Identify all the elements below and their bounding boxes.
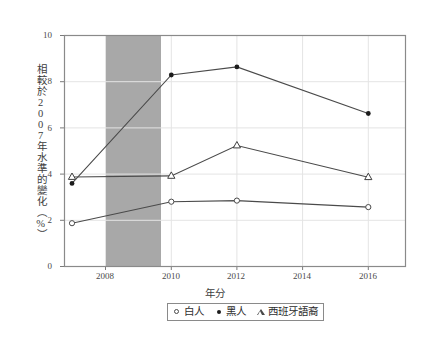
legend-label-black: 黑人 (226, 305, 246, 319)
legend-label-hispanic: 西班牙語裔 (268, 305, 318, 319)
filled-circle-marker-icon (215, 307, 224, 316)
open-circle-marker-icon (173, 307, 182, 316)
plot-area (0, 0, 430, 337)
chart-figure: 相較於2007年水準的變化（%） 年分 10 8 6 4 2 0 2008 20… (0, 0, 430, 337)
legend-label-white: 白人 (184, 305, 204, 319)
chart-legend: 白人 黑人 西班牙語裔 (167, 303, 324, 321)
legend-entry-black: 黑人 (215, 305, 246, 319)
recession-shaded-band (105, 35, 161, 266)
open-triangle-marker-icon (257, 307, 266, 316)
legend-entry-white: 白人 (173, 305, 204, 319)
legend-entry-hispanic: 西班牙語裔 (257, 305, 318, 319)
